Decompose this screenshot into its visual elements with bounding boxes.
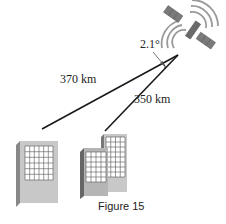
building-right [80,134,127,199]
building-left [16,141,58,207]
satellite-icon [162,0,218,49]
diagram-canvas [0,0,226,224]
figure-caption: Figure 15 [98,200,144,212]
label-angle: 2.1° [140,37,160,52]
label-distance-350: 350 km [134,92,170,107]
label-distance-370: 370 km [60,72,96,87]
